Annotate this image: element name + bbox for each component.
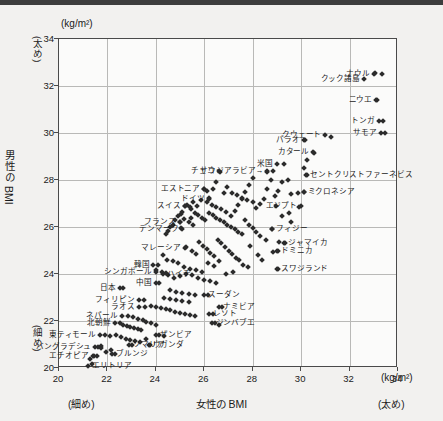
data-point — [193, 268, 199, 274]
data-point — [257, 201, 263, 207]
data-point-labeled — [136, 297, 142, 303]
data-point-labeled — [274, 266, 280, 272]
data-point — [254, 205, 260, 211]
x-tick-label: 32 — [343, 373, 354, 384]
data-point-labeled — [112, 321, 118, 327]
y-tick-mark — [54, 226, 58, 227]
point-label: フィジー — [276, 226, 308, 234]
data-point — [246, 182, 252, 188]
point-label: スワジランド — [281, 266, 328, 274]
point-label: スーダン — [208, 291, 240, 299]
data-point — [264, 187, 270, 193]
y-axis-title: 男性の BMI — [2, 150, 17, 205]
data-point — [180, 290, 186, 296]
point-label: サモア — [353, 129, 377, 137]
data-point — [329, 134, 335, 140]
data-point — [216, 258, 222, 264]
x-tick-mark — [252, 367, 253, 371]
x-tick-label: 22 — [101, 373, 112, 384]
data-point — [192, 292, 198, 298]
y-tick-label: 20 — [32, 362, 54, 373]
y-tick-mark — [54, 132, 58, 133]
data-point — [210, 187, 216, 193]
point-label: シンガポール — [104, 268, 151, 276]
bmi-scatter-figure: (kg/m²) (kg/m²) (太め) (細め) (細め) (太め) 男性の … — [0, 0, 443, 421]
y-tick-mark — [54, 367, 58, 368]
data-point-labeled — [298, 203, 304, 209]
point-label: エストニア — [161, 186, 201, 194]
data-point-labeled — [136, 304, 142, 310]
point-label: マレーシア — [141, 244, 181, 252]
point-label: パラオ — [276, 136, 300, 144]
y-tick-label: 34 — [32, 33, 54, 44]
x-tick-mark — [106, 367, 107, 371]
point-label: ミクロネシア — [308, 188, 355, 196]
x-tick-label: 24 — [150, 373, 161, 384]
y-tick-mark — [54, 273, 58, 274]
data-point — [281, 161, 287, 167]
data-point — [193, 251, 199, 257]
data-point — [285, 177, 291, 183]
x-tick-mark — [58, 367, 59, 371]
data-point — [188, 215, 194, 221]
data-point — [239, 231, 245, 237]
data-point — [164, 257, 170, 263]
data-point — [224, 184, 230, 190]
y-tick-label: 28 — [32, 174, 54, 185]
x-tick-label: 28 — [246, 373, 257, 384]
point-label: ラオス — [111, 303, 135, 311]
point-label: ジンバブエ — [216, 320, 256, 328]
top-edge-strip — [0, 0, 443, 5]
y-tick-label: 30 — [32, 127, 54, 138]
data-point — [257, 234, 263, 240]
data-point-labeled — [371, 71, 377, 77]
point-label: バングラデシュ — [36, 343, 91, 351]
point-label: デンマーク — [139, 226, 179, 234]
point-label: 東ティモール — [49, 331, 96, 339]
data-point — [214, 281, 220, 287]
data-point-labeled — [303, 172, 309, 178]
point-label: エジプト — [266, 202, 298, 210]
x-tick-mark — [203, 367, 204, 371]
data-point-labeled — [376, 118, 382, 124]
data-point — [295, 190, 301, 196]
gridline-horizontal — [59, 86, 396, 87]
y-tick-mark — [54, 85, 58, 86]
data-point — [245, 264, 251, 270]
point-label: 日本 — [100, 284, 116, 292]
gridline-horizontal — [59, 180, 396, 181]
data-point — [304, 157, 310, 163]
y-tick-label: 26 — [32, 221, 54, 232]
plot-area: ナウルクック諸島ニウエトンガサモアクウェートパラオカタールセントクリストファーネ… — [58, 38, 397, 367]
y-tick-label: 24 — [32, 268, 54, 279]
x-tick-mark — [349, 367, 350, 371]
data-point — [211, 263, 217, 269]
gridline-horizontal — [59, 133, 396, 134]
data-point — [279, 180, 285, 186]
data-point — [243, 189, 249, 195]
x-tick-label: 26 — [198, 373, 209, 384]
data-point — [250, 199, 256, 205]
point-label: ソマリア — [133, 341, 165, 349]
data-point — [138, 328, 144, 334]
data-point-labeled — [274, 161, 280, 167]
data-point — [235, 202, 241, 208]
gridline-vertical — [350, 39, 351, 366]
data-point — [168, 288, 174, 294]
data-point — [221, 190, 227, 196]
data-point — [272, 194, 278, 200]
x-tick-mark — [300, 367, 301, 371]
y-tick-label: 22 — [32, 315, 54, 326]
y-tick-mark — [54, 38, 58, 39]
point-label: カタール — [278, 148, 310, 156]
data-point — [203, 217, 209, 223]
y-tick-mark — [54, 320, 58, 321]
data-point-labeled — [182, 245, 188, 251]
data-point — [186, 291, 192, 297]
data-point — [228, 214, 234, 220]
point-label: エチオピア — [49, 352, 89, 360]
data-point — [232, 208, 238, 214]
data-point — [268, 177, 274, 183]
point-label: ブルンジ — [116, 350, 148, 358]
data-point — [180, 298, 186, 304]
